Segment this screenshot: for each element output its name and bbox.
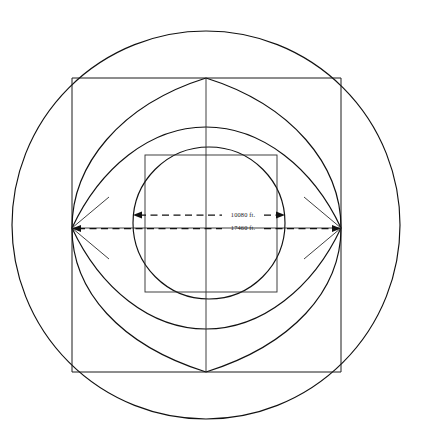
lens-arc-upper xyxy=(72,127,341,228)
inner-square xyxy=(145,155,277,292)
dimension-outer-label: 17460 ft. xyxy=(231,224,256,231)
geometric-diagram: 10080 ft. 17460 ft. xyxy=(0,0,423,443)
dimension-inner-arrow-left xyxy=(133,212,142,219)
lens-arc-lower xyxy=(72,228,341,329)
dimension-inner-arrow-right xyxy=(276,212,285,219)
diagonal-lower-right xyxy=(304,228,341,259)
vesica-arc-left xyxy=(72,78,206,372)
diagonal-upper-right xyxy=(304,197,341,228)
dimension-inner-label: 10080 ft. xyxy=(231,211,256,218)
outer-square xyxy=(72,78,341,372)
diagram-root: 10080 ft. 17460 ft. xyxy=(0,0,423,443)
inner-circle xyxy=(133,147,285,299)
dimension-inner: 10080 ft. xyxy=(133,211,285,219)
diagonal-upper-left xyxy=(72,197,109,228)
vesica-arc-right xyxy=(206,78,341,372)
diagonal-lower-left xyxy=(72,228,109,259)
